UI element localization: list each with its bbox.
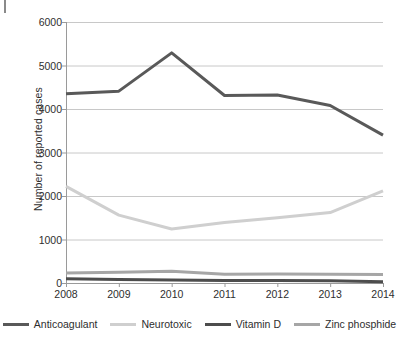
x-axis-tick-labels: 2008200920102011201220132014: [66, 288, 383, 304]
legend-swatch-icon: [3, 323, 29, 326]
x-axis-tick-label: 2008: [43, 288, 89, 300]
legend-item-neurotoxic[interactable]: Neurotoxic: [110, 318, 191, 330]
legend-label: Zinc phosphide: [325, 318, 396, 330]
legend-swatch-icon: [294, 323, 320, 326]
series-line-zinc-phosphide: [66, 271, 383, 274]
chart-legend: AnticoagulantNeurotoxicVitamin DZinc pho…: [0, 314, 399, 334]
legend-item-vitamin-d[interactable]: Vitamin D: [205, 318, 281, 330]
legend-item-anticoagulant[interactable]: Anticoagulant: [3, 318, 98, 330]
chart-figure: Number of reported cases 010002000300040…: [0, 0, 399, 342]
legend-swatch-icon: [205, 323, 231, 326]
x-axis-tick-label: 2013: [307, 288, 353, 300]
series-line-anticoagulant: [66, 53, 383, 135]
x-axis-tick-label: 2014: [360, 288, 399, 300]
series-line-vitamin-d: [66, 279, 383, 282]
legend-item-zinc-phosphide[interactable]: Zinc phosphide: [294, 318, 396, 330]
x-axis-tick-label: 2012: [254, 288, 300, 300]
legend-label: Anticoagulant: [34, 318, 98, 330]
legend-label: Neurotoxic: [141, 318, 191, 330]
x-axis-tick-label: 2010: [149, 288, 195, 300]
x-axis-tick-label: 2011: [202, 288, 248, 300]
x-axis-tick-label: 2009: [96, 288, 142, 300]
series-line-neurotoxic: [66, 186, 383, 229]
legend-label: Vitamin D: [236, 318, 281, 330]
legend-swatch-icon: [110, 323, 136, 326]
